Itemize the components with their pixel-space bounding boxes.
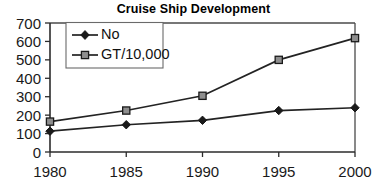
data-point-diamond: [122, 121, 130, 129]
series-no: [46, 104, 359, 136]
data-point-square: [351, 35, 358, 42]
x-tick-label: 2000: [338, 163, 371, 180]
x-tick-label: 1995: [262, 163, 295, 180]
square-marker-icon: [81, 51, 88, 58]
data-point-square: [123, 107, 130, 114]
x-tick-label: 1985: [110, 163, 143, 180]
data-point-square: [46, 118, 53, 125]
data-point-diamond: [198, 116, 206, 124]
x-tick-label: 1980: [33, 163, 66, 180]
y-tick-label: 700: [16, 15, 41, 32]
line-chart-plot: 700 600 500 400 300 200 100 0 1980 1985 …: [0, 0, 387, 189]
x-axis-tick-labels: 1980 1985 1990 1995 2000: [33, 163, 371, 180]
y-tick-label: 400: [16, 70, 41, 87]
y-tick-label: 500: [16, 51, 41, 68]
x-tick-label: 1990: [186, 163, 219, 180]
y-tick-label: 0: [33, 144, 41, 161]
legend-label-no: No: [101, 26, 120, 42]
data-point-square: [199, 92, 206, 99]
y-tick-label: 600: [16, 33, 41, 50]
data-point-diamond: [351, 104, 359, 112]
legend-label-gt: GT/10,000: [101, 46, 170, 62]
y-tick-label: 100: [16, 125, 41, 142]
y-tick-label: 200: [16, 107, 41, 124]
y-axis-tick-labels: 700 600 500 400 300 200 100 0: [16, 15, 41, 161]
data-point-diamond: [275, 106, 283, 114]
y-tick-label: 300: [16, 88, 41, 105]
data-point-square: [275, 56, 282, 63]
chart-legend: No GT/10,000: [66, 23, 170, 69]
chart-figure: Cruise Ship Development: [0, 0, 387, 189]
